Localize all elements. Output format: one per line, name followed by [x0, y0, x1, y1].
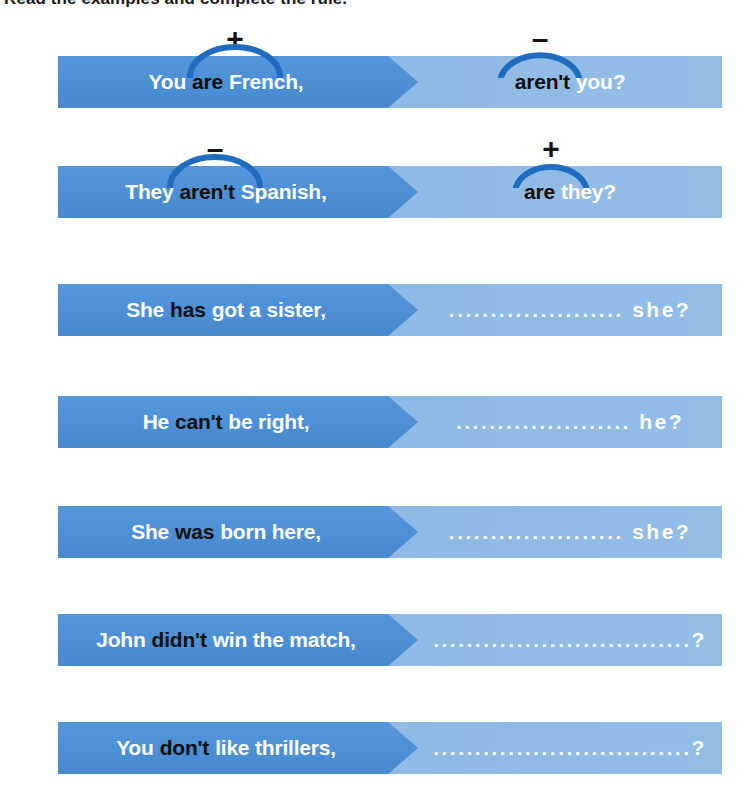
statement-auxiliary: aren't — [180, 180, 235, 204]
question-tag-row: – + Theyaren'tSpanish, arethey? — [0, 132, 742, 232]
blank-dotted-line[interactable]: ...............................? — [433, 736, 707, 760]
tag-answer-blank[interactable]: ...............................? — [418, 722, 722, 774]
statement-text: Johndidn'twin the match, — [58, 614, 418, 666]
instruction-text: Read the examples and complete the rule. — [4, 0, 347, 9]
tag-subject: they? — [561, 180, 616, 204]
blank-dotted-line[interactable]: ...............................? — [433, 628, 707, 652]
statement-auxiliary: has — [170, 298, 206, 322]
statement-predicate: like thrillers, — [215, 736, 336, 760]
question-tag-row: Youdon'tlike thrillers, ................… — [0, 688, 742, 788]
statement-predicate: got a sister, — [212, 298, 326, 322]
tag-auxiliary: are — [524, 180, 555, 204]
statement-auxiliary: was — [175, 520, 214, 544]
statement-predicate: win the match, — [213, 628, 356, 652]
tag-answer-blank[interactable]: ..................... she? — [418, 506, 722, 558]
tag-text: arethey? — [418, 166, 722, 218]
statement-subject: She — [131, 520, 169, 544]
question-tag-row: Shewasborn here, ..................... s… — [0, 472, 742, 572]
instruction-line: Read the examples and complete the rule. — [0, 0, 742, 13]
tag-text: aren'tyou? — [418, 56, 722, 108]
statement-subject: He — [143, 410, 169, 434]
statement-subject: John — [96, 628, 145, 652]
tag-answer-blank[interactable]: ...............................? — [418, 614, 722, 666]
statement-text: Hecan'tbe right, — [58, 396, 418, 448]
tag-subject: you? — [576, 70, 625, 94]
tag-answer-blank[interactable]: ..................... he? — [418, 396, 722, 448]
statement-text: Theyaren'tSpanish, — [58, 166, 418, 218]
statement-predicate: French, — [229, 70, 303, 94]
statement-text: Shewasborn here, — [58, 506, 418, 558]
question-tag-row: Hecan'tbe right, ..................... h… — [0, 362, 742, 462]
question-tag-row: Shehasgot a sister, ....................… — [0, 250, 742, 350]
blank-dotted-line[interactable]: ..................... she? — [449, 520, 691, 544]
tag-auxiliary: aren't — [515, 70, 570, 94]
statement-auxiliary: didn't — [152, 628, 207, 652]
statement-predicate: Spanish, — [241, 180, 327, 204]
blank-dotted-line[interactable]: ..................... he? — [456, 410, 684, 434]
statement-text: YouareFrench, — [58, 56, 418, 108]
statement-subject: You — [116, 736, 154, 760]
statement-subject: They — [125, 180, 173, 204]
statement-auxiliary: can't — [175, 410, 222, 434]
statement-text: Youdon'tlike thrillers, — [58, 722, 418, 774]
question-tag-row: + – YouareFrench, aren'tyou? — [0, 22, 742, 122]
statement-subject: You — [149, 70, 187, 94]
statement-predicate: be right, — [228, 410, 309, 434]
statement-predicate: born here, — [220, 520, 321, 544]
blank-dotted-line[interactable]: ..................... she? — [449, 298, 691, 322]
question-tag-row: Johndidn'twin the match, ...............… — [0, 580, 742, 680]
statement-subject: She — [126, 298, 164, 322]
statement-text: Shehasgot a sister, — [58, 284, 418, 336]
tag-answer-blank[interactable]: ..................... she? — [418, 284, 722, 336]
statement-auxiliary: are — [192, 70, 223, 94]
worksheet-page: Read the examples and complete the rule.… — [0, 0, 742, 791]
statement-auxiliary: don't — [160, 736, 209, 760]
